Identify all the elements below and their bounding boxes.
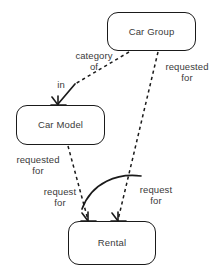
edge-label-requested-for-car-model-line2: for (7, 165, 69, 176)
crows-foot-rental-left (81, 212, 96, 221)
edge-label-requested-for-car-model-line1: requested (7, 154, 69, 165)
edge-label-category-of: category of (62, 50, 126, 72)
edge-label-request-for-left: request for (34, 186, 86, 208)
edge-label-requested-for-car-group-line2: for (158, 72, 216, 83)
edge-label-request-for-right: request for (128, 184, 184, 206)
edge-label-request-for-left-line1: request (34, 186, 86, 197)
entity-car-group[interactable]: Car Group (107, 12, 196, 51)
edge-label-in: in (52, 79, 70, 90)
entity-car-group-label: Car Group (129, 27, 175, 37)
edge-label-requested-for-car-model: requested for (7, 154, 69, 176)
entity-rental[interactable]: Rental (68, 221, 156, 265)
edge-label-requested-for-car-group-line1: requested (158, 61, 216, 72)
entity-car-model-label: Car Model (38, 120, 83, 130)
edge-label-in-text: in (52, 79, 70, 90)
connector-requested-for-car-model (68, 146, 88, 220)
entity-car-model[interactable]: Car Model (16, 105, 105, 145)
er-diagram-canvas: Car Group Car Model Rental category of i… (0, 0, 219, 280)
edge-label-request-for-right-line2: for (128, 195, 184, 206)
edge-label-request-for-right-line1: request (128, 184, 184, 195)
edge-label-request-for-left-line2: for (34, 197, 86, 208)
entity-rental-label: Rental (98, 238, 126, 248)
crows-foot-rental-right (111, 212, 126, 221)
edge-label-requested-for-car-group: requested for (158, 61, 216, 83)
edge-label-category-of-line2: of (62, 61, 126, 72)
edge-label-category-of-line1: category (62, 50, 126, 61)
